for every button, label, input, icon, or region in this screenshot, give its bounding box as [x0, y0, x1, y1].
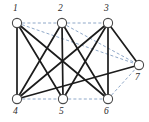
graph-node-label-2: 2	[58, 4, 63, 14]
graph-node-7[interactable]	[134, 60, 143, 69]
dashed-edge-1-7	[17, 23, 139, 65]
graph-node-label-5: 5	[59, 107, 64, 117]
graph-node-label-3: 3	[104, 4, 109, 14]
graph-node-5[interactable]	[58, 94, 67, 103]
graph-canvas	[0, 0, 149, 122]
graph-node-label-7: 7	[135, 73, 140, 83]
solid-edge-layer	[17, 23, 139, 99]
graph-node-3[interactable]	[103, 18, 112, 27]
graph-node-4[interactable]	[12, 94, 21, 103]
graph-node-1[interactable]	[12, 18, 21, 27]
graph-node-6[interactable]	[103, 94, 112, 103]
graph-node-label-4: 4	[13, 107, 18, 117]
graph-node-label-1: 1	[13, 4, 18, 14]
solid-edge-4-7	[17, 65, 139, 99]
graph-node-label-6: 6	[104, 107, 109, 117]
graph-node-2[interactable]	[57, 18, 66, 27]
graph-figure: 1234567	[0, 0, 149, 122]
dashed-edge-layer	[17, 23, 139, 99]
solid-edge-3-7	[108, 23, 139, 65]
